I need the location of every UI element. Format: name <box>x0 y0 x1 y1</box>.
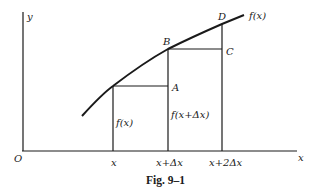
curve-label: f(x) <box>248 10 266 21</box>
point-A-label: A <box>171 82 179 93</box>
tick-label-x: x <box>111 157 117 168</box>
f-x-label: f(x) <box>115 117 133 128</box>
point-D-label: D <box>217 11 226 22</box>
curve-f-x <box>82 15 244 116</box>
derivative-diagram: y O x f(x) D B C A f(x) f(x+Δx) x x+Δx x… <box>0 0 324 195</box>
tick-label-x-plus-2dx: x+2Δx <box>209 157 243 168</box>
f-x-plus-dx-label: f(x+Δx) <box>170 109 209 120</box>
point-C-label: C <box>226 46 234 57</box>
tick-label-x-plus-dx: x+Δx <box>156 157 183 168</box>
x-axis-label: x <box>298 152 304 163</box>
point-B-label: B <box>162 36 170 47</box>
origin-label: O <box>14 153 22 164</box>
y-axis-label: y <box>26 11 33 22</box>
figure-caption: Fig. 9–1 <box>146 174 185 187</box>
